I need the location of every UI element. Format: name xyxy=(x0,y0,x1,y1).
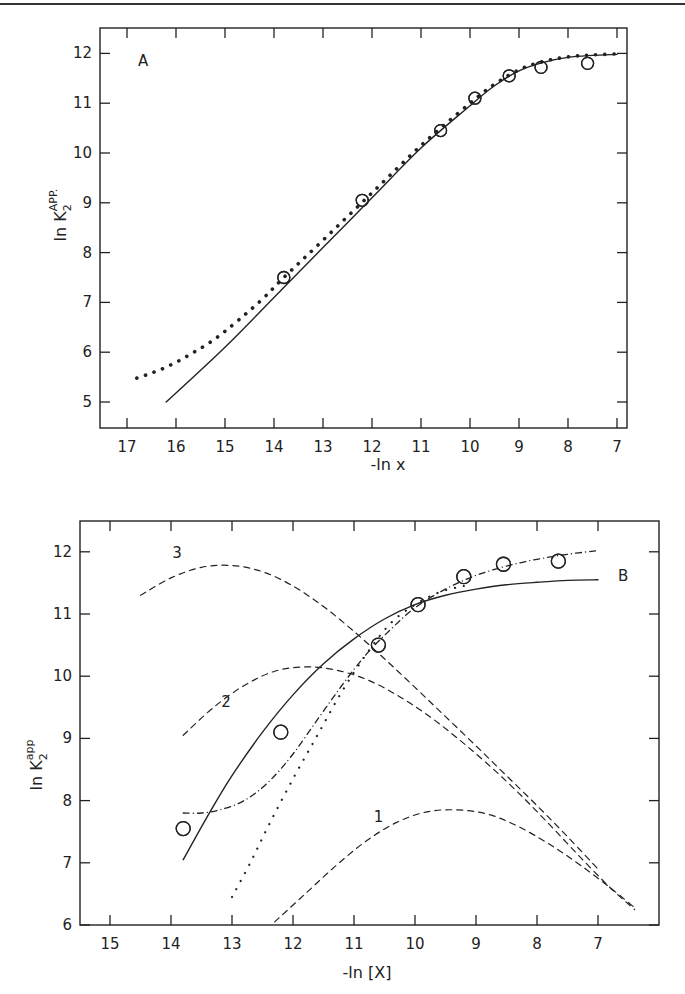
y-tick-label: 8 xyxy=(62,792,72,810)
curve-label-1: 1 xyxy=(374,808,384,826)
plot-frame xyxy=(80,521,659,925)
x-tick-label: 15 xyxy=(100,935,119,953)
y-axis-title: ln K2app xyxy=(23,740,50,791)
x-tick-label: 12 xyxy=(283,935,302,953)
series-dotted-fit xyxy=(232,586,464,897)
x-tick-label: 14 xyxy=(161,935,180,953)
curve-label-3: 3 xyxy=(172,544,182,562)
y-tick-label: 9 xyxy=(62,729,72,747)
chart-panel-b: 1514131211109876789101112-ln [X]ln K2app… xyxy=(0,0,685,994)
series-curve-1 xyxy=(275,810,635,922)
y-tick-label: 11 xyxy=(53,605,72,623)
series-dash-dot-fit xyxy=(183,551,598,814)
series-curve-2 xyxy=(183,667,634,910)
y-tick-label: 10 xyxy=(53,667,72,685)
x-tick-label: 9 xyxy=(471,935,481,953)
x-tick-label: 7 xyxy=(593,935,603,953)
y-tick-label: 6 xyxy=(62,916,72,934)
x-tick-label: 10 xyxy=(405,935,424,953)
x-tick-label: 8 xyxy=(532,935,542,953)
y-tick-label: 7 xyxy=(62,854,72,872)
x-tick-label: 11 xyxy=(344,935,363,953)
series-solid-fit xyxy=(183,580,598,860)
x-axis-title: -ln [X] xyxy=(343,963,392,982)
series-curve-3 xyxy=(141,565,599,869)
y-tick-label: 12 xyxy=(53,543,72,561)
plot-area-B: 1514131211109876789101112-ln [X]ln K2app… xyxy=(23,521,659,982)
x-tick-label: 13 xyxy=(222,935,241,953)
panel-label: B xyxy=(618,567,628,585)
